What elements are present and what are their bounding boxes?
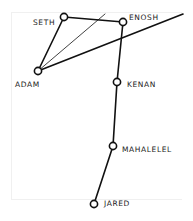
node-mahalelel — [109, 142, 116, 149]
label-mahalelel: MAHALELEL — [122, 146, 172, 154]
node-seth — [60, 13, 67, 20]
thick-ray — [38, 14, 183, 71]
label-jared: JARED — [104, 200, 130, 208]
label-kenan: KENAN — [127, 81, 156, 89]
label-enosh: ENOSH — [129, 14, 159, 22]
edge-seth-enosh — [64, 17, 123, 22]
genealogy-diagram — [0, 0, 193, 221]
edge-kenan-mahalelel — [113, 82, 117, 146]
node-jared — [90, 200, 97, 207]
node-enosh — [119, 18, 126, 25]
label-seth: SETH — [33, 19, 55, 27]
node-adam — [34, 67, 41, 74]
edge-enosh-kenan — [117, 22, 123, 82]
edge-mahalelel-jared — [94, 146, 113, 204]
label-adam: ADAM — [15, 81, 40, 89]
node-kenan — [113, 78, 120, 85]
